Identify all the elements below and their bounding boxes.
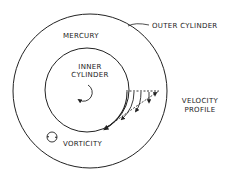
rotation-arrow-icon — [79, 85, 92, 101]
mercury-label: MERCURY — [63, 32, 99, 40]
outer-cylinder-label: OUTER CYLINDER — [152, 22, 218, 30]
velocity-profile-label-line2: PROFILE — [170, 106, 230, 114]
velocity-profile-label-line1: VELOCITY — [170, 97, 230, 105]
inner-cylinder-label-line2: CYLINDER — [65, 71, 115, 79]
velocity-profile — [105, 91, 159, 129]
inner-cylinder-label-line1: INNER — [70, 63, 110, 71]
vorticity-label: VORTICITY — [63, 140, 102, 148]
